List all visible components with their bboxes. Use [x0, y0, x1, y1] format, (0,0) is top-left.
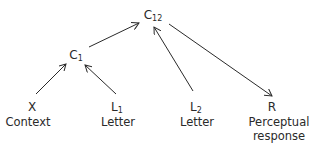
node-l2-symbol: L — [190, 100, 197, 114]
node-l1-label-line1: Letter — [101, 115, 135, 129]
node-l2-subscript: 2 — [197, 106, 202, 115]
node-l2-label-line1: Letter — [180, 115, 214, 129]
node-l2-label: Letter — [180, 115, 214, 129]
node-c1-subscript: 1 — [78, 54, 83, 63]
node-r-symbol: R — [268, 100, 276, 114]
node-x-label-line1: Context — [5, 115, 50, 129]
node-c12-subscript: 12 — [152, 14, 162, 23]
node-l1-subscript: 1 — [118, 106, 123, 115]
node-c12: C12 — [144, 8, 163, 26]
edge-l1-to-c1 — [85, 65, 116, 94]
edge-c1-to-c12 — [89, 23, 139, 47]
node-l1-symbol: L — [111, 100, 118, 114]
node-x-label: Context — [5, 115, 50, 129]
node-r-label-line1: Perceptual — [249, 115, 310, 129]
edge-x-to-c1 — [36, 64, 66, 94]
node-x: X — [28, 100, 36, 114]
node-r-label-line2: response — [249, 129, 310, 143]
node-r-label: Perceptual response — [249, 115, 310, 143]
node-r: R — [268, 100, 276, 114]
edge-c12-to-r — [169, 24, 272, 96]
node-c1: C1 — [69, 48, 82, 66]
node-x-symbol: X — [28, 100, 36, 114]
node-l1-label: Letter — [101, 115, 135, 129]
